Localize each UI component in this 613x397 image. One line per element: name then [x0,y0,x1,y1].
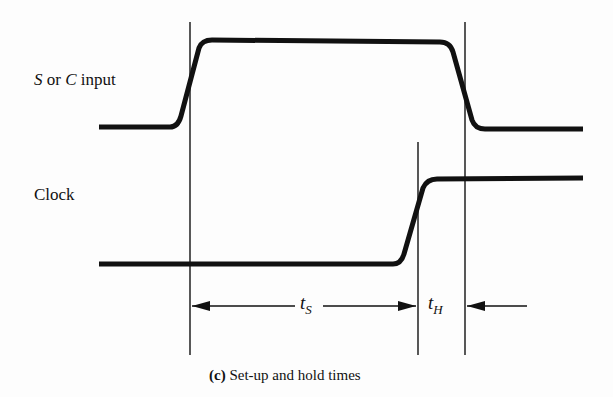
input-signal-label: S or C input [34,70,116,90]
hold-time-dimension [467,301,527,311]
setup-time-label: tS [300,292,312,318]
timing-diagram: S or C input Clock tS tH (c) Set-up and … [0,0,613,397]
arrow-left-icon [467,301,485,311]
input-waveform [99,40,583,129]
figure-caption: (c) Set-up and hold times [209,367,361,384]
clock-signal-label: Clock [34,185,75,205]
clock-waveform [99,178,583,264]
arrow-right-icon [398,301,416,311]
arrow-left-icon [192,301,210,311]
hold-time-label: tH [428,292,443,318]
waveform-canvas [0,0,613,397]
